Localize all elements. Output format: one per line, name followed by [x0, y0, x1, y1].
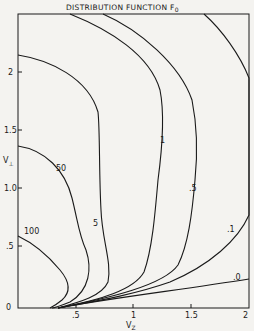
- svg-text:1.5: 1.5: [4, 126, 17, 135]
- contour-100: [18, 236, 68, 308]
- contour-1: [58, 14, 163, 308]
- contour-chart: DISTRIBUTION FUNCTION F0 0 .5 1.0 1.5 2 …: [0, 0, 254, 331]
- y-tick-labels: 0 .5 1.0 1.5 2: [4, 68, 17, 312]
- svg-text:1.5: 1.5: [185, 311, 198, 320]
- svg-text:1: 1: [131, 311, 136, 320]
- svg-text:.5: .5: [6, 242, 14, 251]
- svg-text:50: 50: [56, 164, 66, 173]
- svg-text:5: 5: [93, 219, 98, 228]
- x-tick-labels: .5 1 1.5 2: [72, 311, 248, 320]
- contour-5: [18, 55, 109, 308]
- contour-labels: 100 50 5 1 .5 .1 .0: [24, 136, 241, 282]
- svg-text:1: 1: [160, 136, 165, 145]
- chart-container: DISTRIBUTION FUNCTION F0 0 .5 1.0 1.5 2 …: [0, 0, 254, 331]
- x-axis-label: VZ: [126, 321, 136, 331]
- contour-lines: [18, 14, 249, 308]
- plot-frame: [18, 14, 249, 308]
- x-axis: [76, 304, 191, 308]
- y-axis-label: V⊥: [3, 156, 14, 167]
- svg-text:100: 100: [24, 227, 39, 236]
- svg-text:1.0: 1.0: [4, 184, 17, 193]
- contour-05: [58, 14, 197, 308]
- svg-text:2: 2: [243, 311, 248, 320]
- contour-01: [58, 14, 249, 308]
- y-axis: [18, 72, 22, 246]
- svg-text:2: 2: [8, 68, 13, 77]
- svg-text:.5: .5: [189, 184, 197, 193]
- chart-title: DISTRIBUTION FUNCTION F0: [66, 3, 179, 13]
- svg-text:.1: .1: [227, 225, 235, 234]
- svg-text:0: 0: [6, 303, 11, 312]
- svg-text:.5: .5: [72, 311, 80, 320]
- svg-text:.0: .0: [233, 273, 241, 282]
